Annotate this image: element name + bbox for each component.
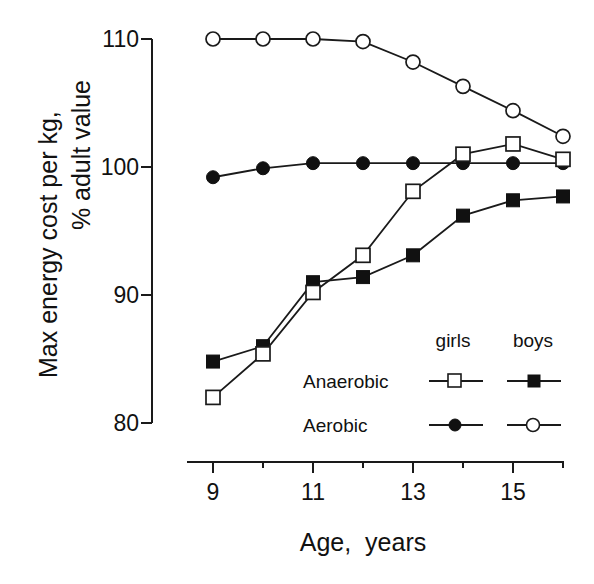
open-circle-marker-icon: [556, 129, 570, 143]
y-axis: 110 100 90 80 Max energy cost per kg, % …: [34, 26, 152, 436]
open-circle-marker-icon: [306, 32, 320, 46]
legend: girls boys Anaerobic Aerobic: [303, 330, 561, 436]
x-tick-label-9: 9: [207, 479, 220, 505]
filled-circle-marker-icon: [507, 157, 520, 170]
y-tick-label-110: 110: [102, 26, 139, 52]
legend-header-girls: girls: [436, 330, 471, 351]
open-square-marker-icon: [456, 147, 470, 161]
filled-circle-marker-icon: [407, 157, 420, 170]
open-square-marker-icon: [356, 248, 370, 262]
filled-square-marker-icon: [457, 209, 470, 222]
legend-row-anaerobic: Anaerobic: [303, 371, 389, 392]
x-tick-label-11: 11: [301, 479, 325, 505]
open-square-marker-icon: [206, 390, 220, 404]
filled-square-marker-icon: [207, 355, 220, 368]
open-square-marker-icon: [556, 152, 570, 166]
legend-aerobic-girls: [429, 419, 483, 431]
filled-square-marker-icon: [357, 271, 370, 284]
open-circle-marker-icon: [256, 32, 270, 46]
filled-square-icon: [528, 375, 540, 387]
open-circle-marker-icon: [356, 35, 370, 49]
open-square-marker-icon: [306, 285, 320, 299]
legend-anaerobic-boys: [507, 375, 561, 387]
open-square-icon: [448, 374, 461, 387]
series-aerobic-boys: [206, 32, 570, 143]
x-tick-label-15: 15: [500, 479, 526, 505]
series-anaerobic-girls: [206, 137, 570, 404]
x-axis: 9 11 13 15 Age, years: [187, 462, 564, 556]
filled-circle-marker-icon: [357, 157, 370, 170]
open-circle-icon: [527, 419, 540, 432]
filled-square-marker-icon: [507, 194, 520, 207]
series-line: [213, 39, 563, 136]
filled-circle-marker-icon: [257, 162, 270, 175]
filled-square-marker-icon: [407, 249, 420, 262]
y-tick-label-100: 100: [101, 154, 139, 180]
y-axis-title-line2: % adult value: [67, 80, 95, 230]
legend-row-aerobic: Aerobic: [303, 415, 367, 436]
open-circle-marker-icon: [206, 32, 220, 46]
legend-anaerobic-girls: [429, 374, 483, 387]
open-square-marker-icon: [506, 137, 520, 151]
series-aerobic-girls: [207, 157, 570, 184]
y-axis-title-line1: Max energy cost per kg,: [34, 111, 62, 378]
x-axis-title: Age, years: [300, 528, 426, 556]
filled-square-marker-icon: [557, 190, 570, 203]
filled-circle-marker-icon: [207, 171, 220, 184]
open-circle-marker-icon: [456, 79, 470, 93]
filled-circle-icon: [449, 419, 461, 431]
legend-aerobic-boys: [507, 419, 561, 432]
open-circle-marker-icon: [406, 55, 420, 69]
y-tick-label-80: 80: [113, 410, 139, 436]
line-chart: 110 100 90 80 Max energy cost per kg, % …: [0, 0, 594, 584]
x-tick-label-13: 13: [400, 479, 426, 505]
legend-header-boys: boys: [513, 330, 553, 351]
series-line: [213, 196, 563, 361]
y-tick-label-90: 90: [113, 282, 139, 308]
open-square-marker-icon: [406, 184, 420, 198]
open-square-marker-icon: [256, 347, 270, 361]
filled-circle-marker-icon: [307, 157, 320, 170]
open-circle-marker-icon: [506, 104, 520, 118]
